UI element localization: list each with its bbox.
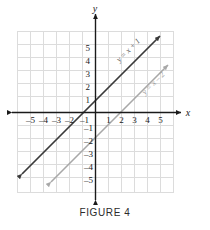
x-tick: 5 (158, 115, 163, 125)
y-tick: 1 (86, 95, 91, 105)
y-tick: –5 (83, 175, 94, 185)
x-tick: –3 (51, 115, 62, 125)
x-tick-labels: –5 –4 –3 –2 –1 1 2 3 4 5 (25, 115, 163, 125)
y-tick: –4 (83, 162, 94, 172)
x-tick: –5 (25, 115, 36, 125)
x-tick: 4 (145, 115, 150, 125)
y-tick: –1 (83, 123, 93, 133)
coordinate-plane: x y –5 –4 –3 –2 –1 1 2 3 4 5 5 4 3 2 (0, 0, 210, 205)
x-tick: –4 (38, 115, 49, 125)
axes (12, 14, 181, 200)
line-label-y-equals-x-plus-1: y = x + 1 (114, 36, 142, 64)
y-tick: 5 (86, 43, 91, 53)
x-tick: –2 (64, 115, 74, 125)
y-tick: 2 (86, 82, 91, 92)
y-tick-labels: 5 4 3 2 1 –1 –2 –3 –4 –5 (83, 43, 94, 186)
y-tick: –3 (83, 149, 94, 159)
graph-svg: x y –5 –4 –3 –2 –1 1 2 3 4 5 5 4 3 2 (0, 0, 210, 205)
y-tick: 4 (86, 56, 91, 66)
y-tick: 3 (86, 69, 91, 79)
figure-caption: FIGURE 4 (0, 207, 210, 218)
y-tick: –2 (83, 136, 93, 146)
x-axis-letter: x (185, 107, 191, 118)
x-tick: 1 (106, 115, 111, 125)
x-tick: 3 (132, 115, 137, 125)
y-axis-letter: y (92, 3, 98, 14)
x-tick: 2 (119, 115, 124, 125)
figure-container: x y –5 –4 –3 –2 –1 1 2 3 4 5 5 4 3 2 (0, 0, 210, 230)
